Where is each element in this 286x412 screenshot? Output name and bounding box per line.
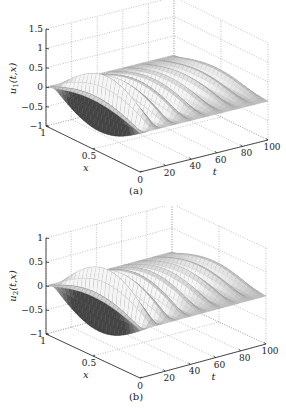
z-tick-label: 1 — [37, 43, 43, 53]
t-axis-label: t — [212, 371, 217, 382]
t-tick-label: 100 — [261, 346, 278, 356]
z-tick-label: 0 — [37, 281, 43, 291]
t-tick-label: 20 — [164, 168, 176, 178]
z-axis-label: u1(t,x) — [7, 63, 20, 95]
panel-caption: (a) — [129, 185, 143, 196]
z-tick-label: 0 — [37, 82, 43, 92]
surface — [46, 55, 268, 136]
x-tick-label: 0 — [137, 175, 143, 185]
surface-plot-b: 10.50−0.5−110.5020406080100u2(t,x)xt(b) — [0, 206, 286, 412]
z-tick-label: −0.5 — [21, 305, 43, 315]
t-tick-label: 20 — [163, 373, 175, 383]
x-tick-label: 1 — [40, 128, 46, 138]
t-tick-label: 80 — [241, 148, 253, 158]
t-tick-label: 40 — [189, 161, 201, 171]
z-tick-label: 0.5 — [29, 63, 44, 73]
z-axis-label: u2(t,x) — [7, 270, 20, 302]
t-tick-label: 60 — [215, 155, 227, 165]
x-tick-label: 0.5 — [82, 358, 97, 368]
x-tick-label: 0.5 — [82, 151, 97, 161]
t-tick-label: 100 — [263, 142, 280, 152]
z-tick-label: 0.5 — [29, 257, 44, 267]
x-tick-label: 0 — [137, 381, 143, 391]
surface-plot-a: 1.510.50−0.5−110.5020406080100u1(t,x)xt(… — [0, 0, 286, 206]
t-axis-label: t — [213, 166, 218, 177]
t-tick-label: 80 — [239, 353, 251, 363]
z-tick-label: 1 — [37, 233, 43, 243]
panel-caption: (b) — [129, 391, 143, 402]
x-tick-label: 1 — [40, 336, 46, 346]
z-tick-label: −0.5 — [21, 102, 43, 112]
t-tick-label: 40 — [189, 366, 201, 376]
t-tick-label: 60 — [214, 360, 226, 370]
figure: 1.510.50−0.5−110.5020406080100u1(t,x)xt(… — [0, 0, 286, 412]
surface — [46, 252, 266, 335]
x-axis-label: x — [83, 369, 89, 380]
x-axis-label: x — [83, 162, 89, 173]
z-tick-label: 1.5 — [29, 24, 44, 34]
